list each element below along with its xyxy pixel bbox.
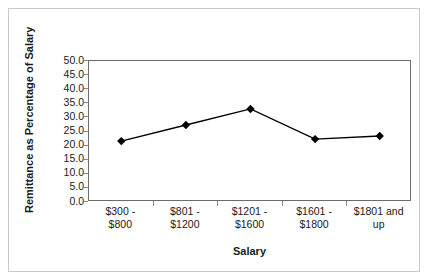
y-axis-tick-mark [84,60,88,61]
y-axis-tick-label: 5.0 [50,181,84,192]
y-axis-tick-mark [84,201,88,202]
y-axis-tick-labels: 50.045.040.035.030.025.020.015.010.05.00… [50,54,84,208]
y-axis-tick-label: 50.0 [50,55,84,66]
x-axis-tick-label: $300 -$800 [88,205,153,243]
y-axis-tick-label: 20.0 [50,139,84,150]
x-axis-tick-label: $801 -$1200 [153,205,218,243]
x-axis-tick-label: $1601 -$1800 [282,205,347,243]
y-axis-tick-label: 40.0 [50,83,84,94]
series-line [121,109,379,141]
y-axis-tick-mark [84,102,88,103]
y-axis-tick-label: 25.0 [50,125,84,136]
x-axis-tick-label: $1801 andup [346,205,411,243]
y-axis-tick-label: 10.0 [50,167,84,178]
x-axis-tick-labels: $300 -$800$801 -$1200$1201 -$1600$1601 -… [88,205,411,243]
x-axis-tick-mark [217,201,218,206]
y-axis-tick-label: 45.0 [50,69,84,80]
plot-area [88,60,411,201]
x-axis-tick-mark [346,201,347,206]
y-axis-tick-label: 0.0 [50,196,84,207]
y-axis-tick-mark [84,88,88,89]
y-axis-title: Remittance as Percentage of Salary [23,33,35,213]
data-point-marker [376,132,384,140]
data-point-marker [182,121,190,129]
y-axis-tick-mark [84,173,88,174]
y-axis-tick-mark [84,74,88,75]
x-axis-title: Salary [88,245,411,257]
y-axis-tick-label: 15.0 [50,153,84,164]
x-axis-tick-mark [282,201,283,206]
y-axis-tick-mark [84,159,88,160]
y-axis-tick-mark [84,131,88,132]
y-axis-tick-mark [84,116,88,117]
y-axis-tick-mark [84,145,88,146]
x-axis-tick-mark [153,201,154,206]
chart-figure: Remittance as Percentage of Salary 50.04… [0,0,431,280]
data-point-marker [246,105,254,113]
y-axis-tick-label: 35.0 [50,97,84,108]
y-axis-tick-label: 30.0 [50,111,84,122]
data-point-marker [117,137,125,145]
x-axis-tick-label: $1201 -$1600 [217,205,282,243]
data-point-marker [311,135,319,143]
y-axis-tick-mark [84,187,88,188]
line-series-svg [89,61,412,202]
